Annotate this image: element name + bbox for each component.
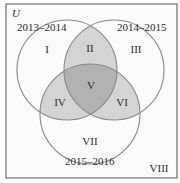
region-label-vii: VII [82,135,98,147]
region-label-iii: III [131,43,142,55]
region-label-v: V [87,79,95,91]
region-label-i: I [45,43,49,55]
set-label-2013-2014: 2013–2014 [17,21,67,33]
region-label-ii: II [86,42,94,54]
set-label-2014-2015: 2014–2015 [117,21,167,33]
region-label-iv: IV [54,96,66,108]
universe-label: U [12,7,21,19]
set-label-2015-2016: 2015–2016 [65,155,115,167]
venn-diagram: U 2013–2014 2014–2015 2015–2016 I II III… [0,0,180,183]
region-label-viii: VIII [150,162,169,174]
region-label-vi: VI [116,96,128,108]
